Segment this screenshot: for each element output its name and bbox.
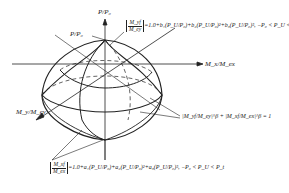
leader-apex (92, 36, 105, 40)
middle-equation: |M_yf/M_ey|^β + |M_xf/M_ex|^β = 1 (182, 113, 271, 119)
top-equation: M_yfM_ey=1.0+b₁(P_U/P₀)+b₂(P_U/P₀)²+b₃(P… (126, 20, 289, 32)
equator-ring (42, 95, 162, 112)
leader-middle-eq-2 (140, 112, 180, 118)
vertical-axis-arrow (103, 19, 107, 25)
oblique-axis (40, 28, 175, 118)
apex-label: P/P₀ (70, 31, 83, 38)
horizontal-axis-label: M_x/M_ex (205, 61, 235, 68)
vertical-axis-label: P/P₀ (98, 9, 111, 16)
leader-bottom-eq-2 (52, 140, 103, 160)
surface-outline (42, 40, 162, 140)
bottom-equation: M_xfM_ex=1.0+a₁(P_U/P₀)+a₂(P_U/P₀)²+a₃(P… (50, 162, 224, 174)
leader-bottom-eq-1 (52, 130, 82, 160)
horizontal-axis-arrow (197, 62, 203, 66)
oblique-axis-label: M_y/M_ey (16, 109, 46, 116)
